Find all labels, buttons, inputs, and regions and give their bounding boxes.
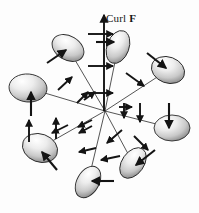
disc-left [8,72,48,103]
diagram-canvas [0,0,199,213]
curl-label-prefix: Curl [106,12,129,24]
field-s-1 [101,156,120,160]
disc-right [154,115,190,141]
field-nw-1 [58,77,72,90]
field-w-1 [52,125,68,133]
curl-axis-label: Curl F [106,12,136,24]
field-s-2 [79,148,96,152]
field-ne-1 [126,73,144,86]
field-sw-1 [79,126,92,133]
field-se-1 [107,130,122,143]
disc-upper-left [47,29,88,67]
curl-label-vector: F [129,12,136,24]
curl-field-diagram: Curl F [0,0,199,213]
field-w-inner [78,120,92,127]
